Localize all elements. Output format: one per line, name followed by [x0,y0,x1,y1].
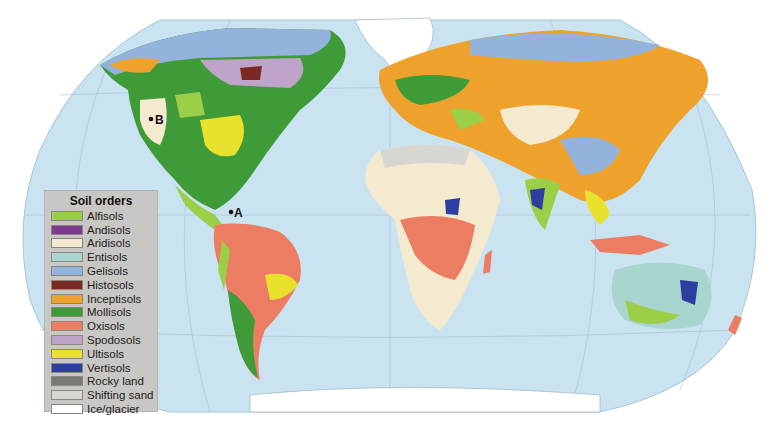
legend-items: AlfisolsAndisolsAridisolsEntisolsGelisol… [51,209,151,416]
legend-label: Spodosols [87,334,141,346]
legend-item: Inceptisols [51,292,151,306]
legend-swatch [51,266,83,276]
legend-item: Shifting sand [51,388,151,402]
legend-swatch [51,335,83,345]
legend-swatch [51,252,83,262]
legend-label: Oxisols [87,320,125,332]
australia [612,263,712,330]
legend-item: Entisols [51,250,151,264]
legend-swatch [51,321,83,331]
legend-label: Entisols [87,251,127,263]
legend-item: Oxisols [51,319,151,333]
legend-item: Alfisols [51,209,151,223]
legend-swatch [51,280,83,290]
legend-swatch [51,349,83,359]
legend-item: Mollisols [51,306,151,320]
legend-label: Andisols [87,224,130,236]
legend-label: Rocky land [87,375,144,387]
legend-swatch [51,307,83,317]
legend-label: Vertisols [87,362,130,374]
legend-item: Spodosols [51,333,151,347]
legend-swatch [51,294,83,304]
legend: Soil orders AlfisolsAndisolsAridisolsEnt… [44,190,158,412]
legend-item: Ultisols [51,347,151,361]
legend-title: Soil orders [51,195,151,208]
legend-item: Andisols [51,223,151,237]
legend-swatch [51,238,83,248]
legend-swatch [51,211,83,221]
legend-label: Histosols [87,279,134,291]
marker-b-label: B [155,113,164,127]
legend-item: Vertisols [51,361,151,375]
legend-label: Mollisols [87,306,131,318]
legend-item: Gelisols [51,264,151,278]
legend-label: Ice/glacier [87,403,139,415]
legend-item: Aridisols [51,237,151,251]
marker-a-label: A [234,206,243,220]
legend-swatch [51,390,83,400]
legend-item: Ice/glacier [51,402,151,416]
legend-label: Shifting sand [87,389,154,401]
legend-swatch [51,225,83,235]
legend-swatch [51,363,83,373]
legend-label: Alfisols [87,210,123,222]
legend-label: Aridisols [87,237,130,249]
legend-label: Inceptisols [87,293,141,305]
legend-item: Histosols [51,278,151,292]
legend-swatch [51,376,83,386]
legend-label: Ultisols [87,348,124,360]
legend-label: Gelisols [87,265,128,277]
legend-item: Rocky land [51,375,151,389]
legend-swatch [51,404,83,414]
